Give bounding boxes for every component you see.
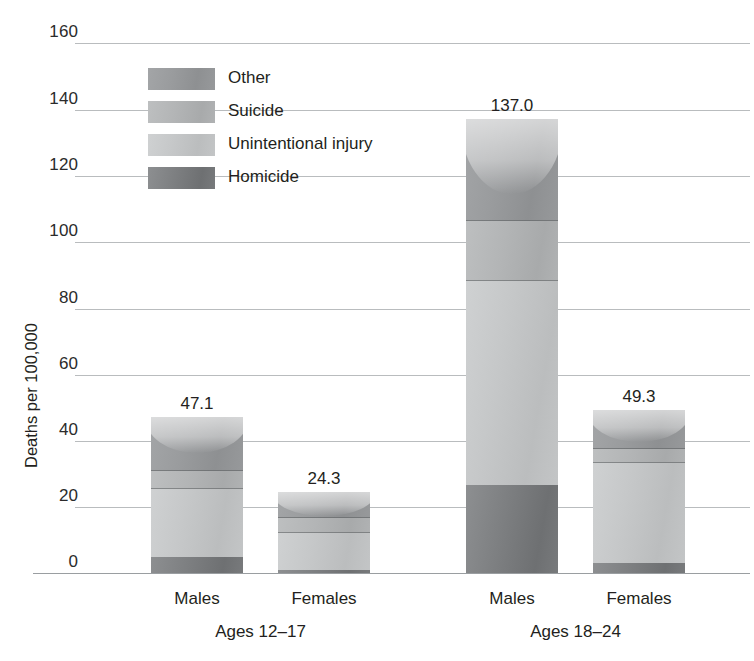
bar-segment-homicide[interactable] (151, 557, 243, 573)
gridline-160 (75, 43, 750, 44)
legend-label-suicide: Suicide (228, 100, 284, 122)
legend-swatch-other-icon (148, 68, 215, 90)
ytick-label-100: 100 (34, 221, 78, 241)
gridline-0 (33, 573, 750, 574)
x-label-males-12-17: Males (151, 589, 243, 609)
bar-segment-homicide[interactable] (278, 570, 370, 573)
bar-segment-unintentional-injury[interactable] (593, 463, 685, 563)
x-label-females-18-24: Females (593, 589, 685, 609)
bar-segment-unintentional-injury[interactable] (466, 281, 558, 485)
bar-value-label-males-12-17: 47.1 (151, 394, 243, 414)
legend-swatch-suicide-icon (148, 101, 215, 123)
ytick-label-120: 120 (34, 155, 78, 175)
gridline-100 (75, 242, 750, 243)
bar-segment-suicide[interactable] (151, 471, 243, 489)
bar-value-label-females-18-24: 49.3 (593, 387, 685, 407)
bar-segment-unintentional-injury[interactable] (278, 533, 370, 570)
y-axis-label: Deaths per 100,000 (22, 323, 41, 468)
bar-females-18-24[interactable] (593, 410, 685, 573)
bar-segment-other[interactable] (593, 410, 685, 449)
stacked-bar-chart: 160 140 120 100 80 60 40 20 0 Deaths per… (0, 0, 754, 661)
bar-segment-other[interactable] (278, 492, 370, 518)
bar-segment-other[interactable] (151, 417, 243, 471)
bar-value-label-females-12-17: 24.3 (278, 469, 370, 489)
x-label-females-12-17: Females (278, 589, 370, 609)
bar-segment-unintentional-injury[interactable] (151, 489, 243, 557)
legend-label-homicide: Homicide (228, 166, 299, 188)
legend-swatch-homicide-icon (148, 167, 215, 189)
ytick-label-0: 0 (34, 552, 78, 572)
bar-segment-other[interactable] (466, 119, 558, 221)
bar-segment-suicide[interactable] (593, 449, 685, 463)
ytick-label-160: 160 (34, 22, 78, 42)
bar-segment-homicide[interactable] (593, 563, 685, 573)
bar-segment-suicide[interactable] (466, 221, 558, 281)
bar-value-label-males-18-24: 137.0 (462, 96, 562, 116)
x-group-label-ages-18-24: Ages 18–24 (466, 622, 685, 642)
ytick-label-20: 20 (34, 486, 78, 506)
bar-males-12-17[interactable] (151, 417, 243, 573)
bar-segment-suicide[interactable] (278, 518, 370, 533)
legend-label-other: Other (228, 67, 271, 89)
ytick-label-140: 140 (34, 89, 78, 109)
x-label-males-18-24: Males (466, 589, 558, 609)
x-group-label-ages-12-17: Ages 12–17 (151, 622, 370, 642)
legend-swatch-unintentional-injury-icon (148, 134, 215, 156)
gridline-60 (75, 375, 750, 376)
bar-females-12-17[interactable] (278, 492, 370, 573)
ytick-label-80: 80 (34, 288, 78, 308)
bar-segment-homicide[interactable] (466, 485, 558, 573)
bar-males-18-24[interactable] (466, 119, 558, 573)
gridline-80 (75, 309, 750, 310)
legend-label-unintentional-injury: Unintentional injury (228, 133, 373, 155)
